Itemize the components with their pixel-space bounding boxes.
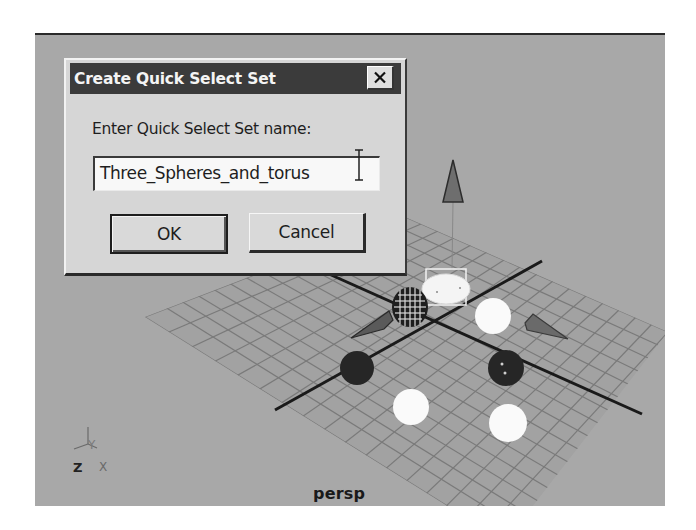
quick-select-set-name-input[interactable]: Three_Spheres_and_torus <box>93 156 380 191</box>
cancel-button[interactable]: Cancel <box>249 213 366 253</box>
i-beam-cursor-icon <box>353 148 365 182</box>
white-sphere-1 <box>475 298 511 334</box>
top-cone <box>443 160 463 202</box>
dialog-title: Create Quick Select Set <box>70 70 276 88</box>
white-sphere-3 <box>489 404 527 442</box>
wireframe-cylinder <box>392 287 428 327</box>
axis-z-label: Z <box>73 460 82 475</box>
screen: Y Z X persp Create Quick Select Set Ente… <box>0 0 696 530</box>
create-quick-select-set-dialog: Create Quick Select Set Enter Quick Sele… <box>64 58 407 276</box>
view-axis-indicator: Y Z X <box>53 420 123 480</box>
camera-label: persp <box>313 484 365 503</box>
name-prompt-label: Enter Quick Select Set name: <box>92 120 311 138</box>
axis-y-label: Y <box>88 438 95 452</box>
ok-button[interactable]: OK <box>110 214 228 254</box>
dark-sphere-2 <box>488 350 524 386</box>
selected-torus <box>422 274 470 304</box>
close-button[interactable] <box>367 66 394 90</box>
dialog-titlebar[interactable]: Create Quick Select Set <box>70 63 401 94</box>
close-icon <box>373 71 387 84</box>
axis-x-label: X <box>99 460 107 474</box>
white-sphere-2 <box>393 389 429 425</box>
dark-sphere-1 <box>340 351 374 385</box>
